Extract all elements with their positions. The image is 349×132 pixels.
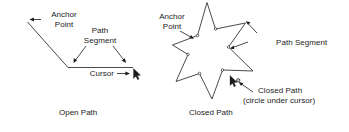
closed-path-segment-arrow-mid-icon: [230, 42, 248, 49]
anchor-label-line2: Point: [163, 22, 181, 31]
closed-path-mouse-cursor-icon: [230, 76, 237, 87]
closed-path-segment-label: Path Segment: [276, 38, 327, 48]
closed-path-caption: Closed Path: [189, 108, 233, 117]
closed-path-segment-arrow-top-icon: [246, 21, 257, 33]
segment-label-line1: Path: [92, 26, 109, 35]
segment-label-line2: Segment: [84, 36, 116, 45]
open-path-segment-arrow-left-icon: [74, 46, 87, 63]
closed-path-note-line2: (circle under cursor): [243, 96, 315, 106]
open-path-cursor-label: Cursor: [66, 69, 114, 79]
diagram-canvas: Anchor Point Path Segment Cursor Open Pa…: [0, 0, 349, 132]
open-path-caption: Open Path: [59, 108, 97, 117]
closed-path-dashed-leader: [236, 79, 241, 82]
anchor-label-line1: Anchor: [159, 12, 185, 21]
open-path-anchor-arrow-icon: [30, 18, 42, 22]
open-path-mouse-cursor-icon: [134, 69, 141, 80]
closed-path-note-line1: Closed Path: [258, 86, 302, 96]
closed-path-anchor-arrow-icon: [180, 31, 194, 39]
anchor-label-line1: Anchor: [51, 10, 77, 19]
closed-path-anchor-point-label: Anchor Point: [150, 12, 194, 31]
open-path-segment-label: Path Segment: [74, 26, 126, 45]
closed-path-anchor-nodes: [187, 28, 230, 75]
anchor-label-line2: Point: [55, 20, 73, 29]
open-path-cursor-arrow-icon: [117, 72, 130, 76]
open-path-segment-arrow-right-icon: [113, 46, 126, 63]
closed-path-pointer-arrow-icon: [239, 82, 253, 92]
